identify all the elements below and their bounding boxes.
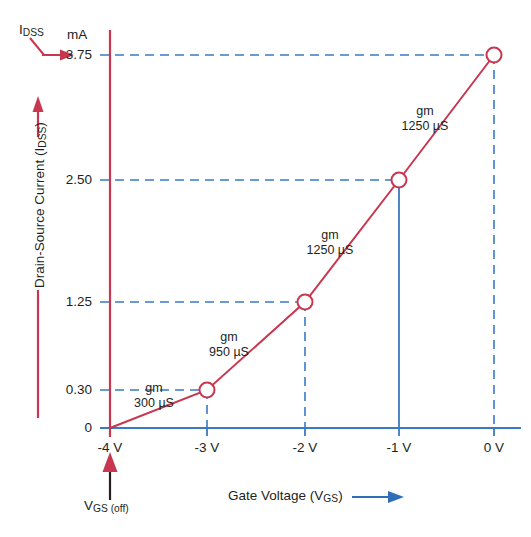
data-point-minus3[interactable]	[200, 383, 215, 398]
y-tick-label-0: 0	[48, 420, 92, 435]
y-tick-label-1-25: 1.25	[48, 294, 92, 309]
x-tick-label-minus-2v: -2 V	[275, 440, 335, 455]
x-tick-label-minus-4v: -4 V	[80, 440, 140, 455]
x-axis-title-sub: GS	[323, 493, 338, 504]
x-tick-label-minus-1v: -1 V	[369, 440, 429, 455]
data-point-minus2[interactable]	[298, 295, 313, 310]
x-axis-title-tail: )	[338, 488, 343, 503]
gm-annotation-1250us-lower: gm 1250 µS	[286, 228, 374, 257]
x-axis-title: Gate Voltage (VGS)	[228, 488, 343, 505]
gm-annotation-300us-title: gm	[110, 381, 198, 396]
y-axis-title: Drain-Source Current (IDSS)	[32, 122, 49, 288]
x-tick-label-minus-3v: -3 V	[177, 440, 237, 455]
idss-label: IDSS	[19, 22, 44, 39]
y-axis-title-main: Drain-Source Current (I	[32, 148, 47, 288]
x-axis-title-main: Gate Voltage (V	[228, 488, 323, 503]
x-axis-blue-arrow	[352, 491, 404, 503]
vgs-off-pointer-arrow	[103, 452, 118, 500]
vgs-off-label-sub: GS (off)	[93, 503, 129, 514]
idss-label-sub: DSS	[23, 27, 44, 38]
y-tick-label-2-50: 2.50	[48, 172, 92, 187]
y-tick-label-0-30: 0.30	[48, 382, 92, 397]
gm-annotation-1250us-lower-value: 1250 µS	[286, 243, 374, 258]
chart-canvas	[0, 0, 531, 537]
y-axis-unit-label: mA	[67, 27, 87, 42]
gm-annotation-950us-title: gm	[185, 330, 273, 345]
data-point-zero[interactable]	[487, 48, 502, 63]
gm-annotation-300us: gm 300 µS	[110, 381, 198, 410]
data-point-minus1[interactable]	[392, 173, 407, 188]
y-axis-title-tail: )	[32, 122, 47, 127]
gm-annotation-950us: gm 950 µS	[185, 330, 273, 359]
gm-annotation-1250us-lower-title: gm	[286, 228, 374, 243]
gm-annotation-1250us-upper: gm 1250 µS	[381, 104, 469, 133]
gm-annotation-1250us-upper-title: gm	[381, 104, 469, 119]
jfet-transconductance-chart: IDSS mA 3.75 2.50 1.25 0.30 0 -4 V -3 V …	[0, 0, 531, 537]
y-tick-label-3-75: 3.75	[48, 47, 92, 62]
x-axis-ticks	[110, 428, 494, 436]
vgs-off-label: VGS (off)	[84, 498, 129, 515]
gm-annotation-300us-value: 300 µS	[110, 396, 198, 411]
gm-annotation-1250us-upper-value: 1250 µS	[381, 119, 469, 134]
x-tick-label-0v: 0 V	[464, 440, 524, 455]
vgs-off-label-main: V	[84, 498, 93, 513]
y-axis-title-sub: DSS	[37, 127, 48, 148]
gm-annotation-950us-value: 950 µS	[185, 345, 273, 360]
